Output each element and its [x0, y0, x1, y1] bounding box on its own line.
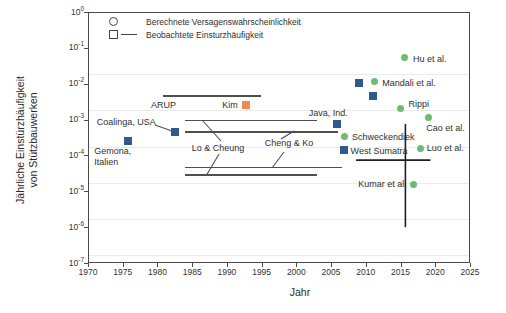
y-axis-title-line2: von Stützbauwerken: [27, 76, 40, 204]
y-tick-label: 10-4: [58, 151, 84, 160]
point-label-hu-et-al: Hu et al.: [413, 53, 447, 64]
range-line-lo-cheung-upper: [185, 120, 317, 121]
point-cao-et-al: [425, 114, 432, 121]
y-tick-label: 10-3: [58, 115, 84, 124]
annotation-label-arup: ARUP: [151, 100, 176, 111]
annotation-label-cheng-ko: Cheng & Ko: [265, 138, 314, 149]
x-tick-label: 1985: [177, 268, 207, 277]
point-label-mandali-et-al: Mandali et al.: [382, 77, 436, 88]
range-line-lo-cheung-lower: [185, 174, 317, 175]
point-label-coalinga-usa: Coalinga, USA: [97, 117, 156, 128]
y-axis-title: Jährliche Einstürzhäufigkeit von Stützba…: [14, 76, 40, 204]
y-tick-label: 10-7: [58, 259, 84, 268]
point-beobachtete-einsturzh-ufigkeit: [369, 92, 377, 100]
range-line-arup: [163, 95, 261, 96]
y-tick-label: 10-2: [58, 79, 84, 88]
annotation-label-lo-cheung: Lo & Cheung: [192, 143, 245, 154]
x-tick-label: 1980: [142, 268, 172, 277]
point-label-rippi: Rippi: [409, 99, 430, 110]
point-west-sumatra: [340, 146, 348, 154]
chart-canvas: Jährliche Einstürzhäufigkeit von Stützba…: [0, 0, 506, 313]
point-label-kim: Kim: [222, 99, 238, 110]
point-label-kumar-et-al: Kumar et al.: [358, 179, 407, 190]
point-hu-et-al: [401, 54, 408, 61]
point-rippi: [397, 105, 404, 112]
y-tick: [84, 263, 88, 264]
y-tick-label: 10-5: [58, 187, 84, 196]
point-label-luo-et-al: Luo et al.: [427, 143, 464, 154]
x-tick-label: 2020: [420, 268, 450, 277]
y-tick: [84, 48, 88, 49]
point-gemona-italien: [124, 137, 132, 145]
point-luo-et-al: [417, 145, 424, 152]
x-tick-label: 2025: [455, 268, 485, 277]
point-mandali-et-al: [371, 78, 378, 85]
y-tick: [84, 155, 88, 156]
point-beobachtete-einsturzh-ufigkeit: [355, 79, 363, 87]
y-tick: [84, 120, 88, 121]
x-tick-label: 2000: [281, 268, 311, 277]
x-tick-label: 1970: [73, 268, 103, 277]
point-label-west-sumatra: West Sumatra: [351, 145, 408, 156]
x-tick-label: 1995: [247, 268, 277, 277]
point-kim: [242, 101, 250, 109]
x-tick-label: 2010: [351, 268, 381, 277]
y-tick-label: 10-1: [58, 43, 84, 52]
y-tick: [84, 12, 88, 13]
x-tick-label: 2005: [316, 268, 346, 277]
range-line-cheng-ko-lower: [185, 167, 341, 168]
y-tick: [84, 227, 88, 228]
x-axis-title: Jahr: [250, 286, 350, 298]
y-axis-title-line1: Jährliche Einstürzhäufigkeit: [14, 76, 27, 204]
point-label-schweckendiek: Schweckendiek: [352, 131, 415, 142]
y-tick: [84, 84, 88, 85]
point-label-gemona-italien: Gemona, Italien: [94, 146, 131, 168]
point-label-java-ind: Java, Ind.: [309, 107, 348, 118]
y-tick: [84, 191, 88, 192]
range-line-cheng-ko-upper: [185, 131, 338, 132]
y-tick-label: 100: [58, 8, 84, 17]
y-tick-label: 10-6: [58, 223, 84, 232]
x-tick-label: 2015: [386, 268, 416, 277]
x-tick-label: 1990: [212, 268, 242, 277]
x-tick-label: 1975: [108, 268, 138, 277]
point-label-cao-et-al: Cao et al.: [426, 123, 465, 134]
point-coalinga-usa: [171, 128, 179, 136]
point-java-ind: [333, 120, 341, 128]
